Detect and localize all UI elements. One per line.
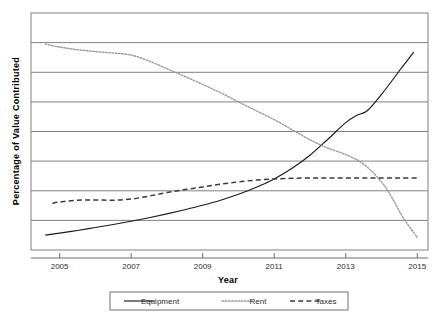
x-axis-title: Year [218, 275, 238, 285]
legend-label-equipment: Equipment [141, 297, 180, 306]
x-axis-tick-label: 2011 [266, 262, 284, 271]
legend-label-rent: Rent [250, 297, 268, 306]
legend-label-taxes: Taxes [316, 297, 337, 306]
line-chart-svg: 200520072009201120132015 Year Percentage… [0, 0, 443, 320]
x-axis-tick-labels: 200520072009201120132015 [51, 262, 427, 271]
x-axis-tick-label: 2009 [194, 262, 212, 271]
x-axis-tick-label: 2005 [51, 262, 69, 271]
chart-figure: 200520072009201120132015 Year Percentage… [0, 0, 443, 320]
x-axis-tick-label: 2013 [337, 262, 355, 271]
x-axis-ticks [60, 253, 418, 258]
legend: EquipmentRentTaxes [110, 292, 348, 310]
x-axis-tick-label: 2015 [408, 262, 426, 271]
y-axis-title: Percentage of Value Contributed [11, 57, 21, 205]
x-axis-tick-label: 2007 [122, 262, 140, 271]
